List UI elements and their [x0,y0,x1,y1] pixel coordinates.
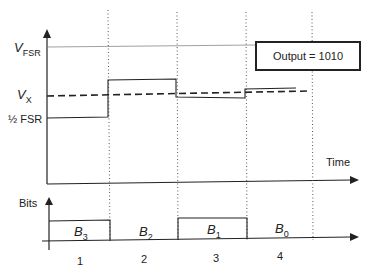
bit-label-b1: B1 [207,223,221,240]
vx-dashed-line [47,91,310,96]
dac-output-staircase [47,79,296,118]
vx-label: VX [17,88,32,105]
bits-axis-arrow-icon [45,197,53,205]
output-box: Output = 1010 [255,41,361,71]
step-2-label: 2 [141,254,147,265]
voltage-axis-arrow-icon [43,29,51,38]
bits-label: Bits [19,198,37,209]
time-axis-arrow-icon [350,176,359,184]
half-fsr-label: ½ FSR [8,114,42,125]
bits-time-axis-arrow-icon [350,233,359,241]
bit-label-b0: B0 [275,222,289,239]
time-label: Time [326,157,350,168]
step-3-label: 3 [213,253,219,264]
bit-label-b2: B2 [139,225,153,242]
vfsr-label: VFSR [14,41,41,58]
bits-time-axis [42,237,352,241]
time-axis [47,180,352,184]
vfsr-line [47,45,255,47]
bit-label-b3: B3 [74,225,88,242]
step-4-label: 4 [277,251,283,262]
step-1-label: 1 [77,256,83,267]
